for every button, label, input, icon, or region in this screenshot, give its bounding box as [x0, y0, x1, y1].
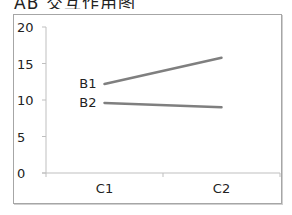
y-tick-label: 5 [17, 130, 25, 145]
y-tick-label: 10 [17, 93, 34, 108]
y-tick-label: 20 [17, 20, 34, 35]
y-tick-label: 0 [17, 166, 25, 181]
series-line-b1 [105, 58, 222, 84]
x-tick-label: C1 [96, 181, 113, 196]
x-tick-label: C2 [213, 181, 230, 196]
chart-axes [42, 27, 280, 177]
interaction-line-chart: 05101520 C1C2 B1B2 [0, 0, 292, 215]
y-axis-tick-labels: 05101520 [17, 20, 34, 181]
series-line-b2 [105, 103, 222, 107]
series-label-b1: B1 [79, 76, 96, 91]
series-label-b2: B2 [79, 95, 96, 110]
chart-series: B1B2 [79, 58, 221, 110]
y-tick-label: 15 [17, 57, 34, 72]
x-axis-tick-labels: C1C2 [96, 181, 230, 196]
